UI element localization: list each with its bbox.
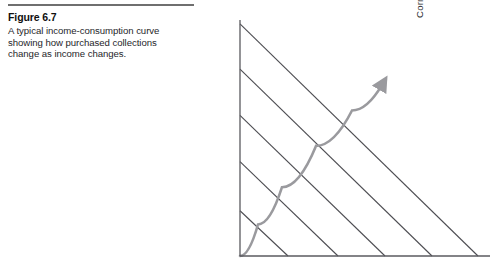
figure-page: Figure 6.7 A typical income-consumption … [0, 0, 494, 274]
plot-svg [0, 0, 494, 274]
budget-line [240, 24, 478, 256]
budget-line [240, 69, 432, 256]
budget-line [240, 162, 338, 256]
budget-lines-group [240, 24, 478, 256]
budget-line [240, 115, 385, 256]
